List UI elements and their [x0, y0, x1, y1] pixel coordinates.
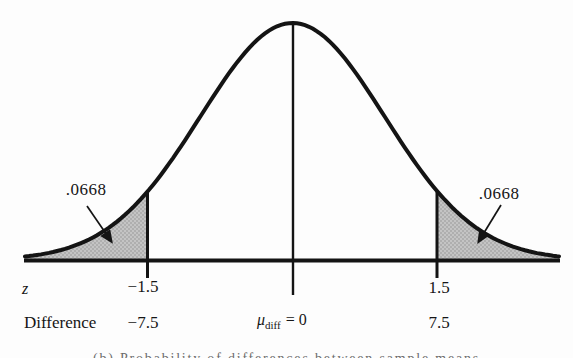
- z-tick-positive-1-5: 1.5: [419, 278, 459, 298]
- z-axis-row-label: z: [22, 280, 28, 298]
- left-shaded-tail-region: [25, 192, 148, 261]
- difference-tick-positive-7-5: 7.5: [419, 313, 459, 333]
- mu-subscript-diff: diff: [265, 319, 281, 331]
- distribution-figure-page: .0668 .0668 z −1.5 1.5 Difference −7.5 μ…: [0, 0, 573, 358]
- mean-difference-expression: μdiff= 0: [257, 311, 307, 329]
- figure-caption-clipped: (b) Probability of differences between s…: [0, 351, 573, 358]
- difference-tick-negative-7-5: −7.5: [119, 313, 167, 333]
- left-tail-probability-label: .0668: [59, 180, 113, 200]
- normal-distribution-chart: [0, 0, 573, 358]
- right-tail-probability-label: .0668: [472, 184, 526, 204]
- equals-zero-text: = 0: [286, 311, 307, 328]
- mu-symbol: μ: [257, 311, 265, 328]
- z-tick-negative-1-5: −1.5: [119, 277, 167, 297]
- difference-axis-row-label: Difference: [24, 313, 96, 333]
